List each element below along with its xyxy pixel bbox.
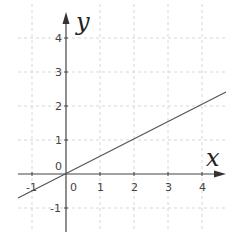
y-tick-label: -1	[50, 202, 61, 215]
origin-label-y: 0	[55, 160, 62, 173]
y-tick-label: 4	[55, 32, 62, 45]
y-axis-arrow-icon	[63, 12, 70, 24]
origin-label-x: 0	[70, 181, 77, 194]
y-axis	[63, 12, 70, 232]
x-tick-label: 1	[97, 181, 104, 194]
function-line	[18, 92, 226, 198]
y-tick-label: 1	[55, 134, 62, 147]
y-axis-label: y	[75, 8, 90, 36]
x-tick-label: 2	[131, 181, 138, 194]
grid	[18, 4, 226, 230]
x-axis	[18, 171, 226, 178]
y-tick-label: 2	[55, 100, 62, 113]
x-axis-label: x	[206, 144, 220, 172]
x-tick-label: -1	[26, 181, 37, 194]
function-plot: x y 0 0 -1 1 2 3 4 4 3 2 1 -1	[0, 0, 234, 241]
y-tick-label: 3	[55, 66, 62, 79]
x-tick-label: 3	[165, 181, 172, 194]
x-tick-label: 4	[199, 181, 206, 194]
plot-canvas: x y 0 0 -1 1 2 3 4 4 3 2 1 -1	[0, 0, 234, 241]
